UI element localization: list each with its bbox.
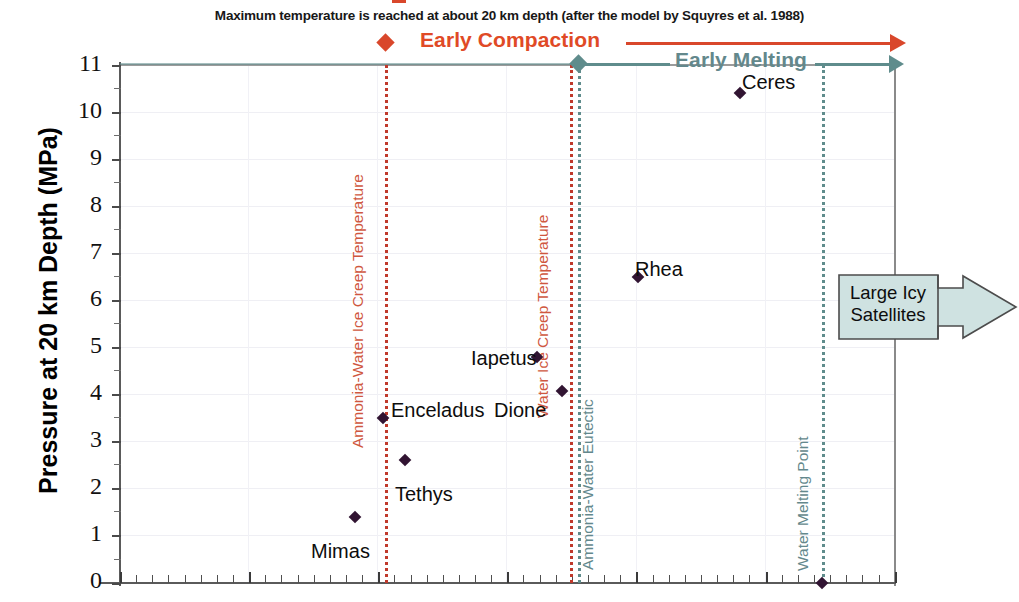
x-axis-minor-tick bbox=[717, 575, 718, 583]
x-axis-major-tick bbox=[120, 572, 122, 583]
melting-right-line bbox=[815, 63, 891, 66]
x-axis-minor-tick bbox=[346, 575, 347, 583]
data-point-tethys[interactable] bbox=[399, 453, 412, 466]
threshold-label-ammonia-water-eutectic: Ammonia-Water Eutectic bbox=[579, 399, 597, 570]
x-axis-minor-tick bbox=[330, 575, 331, 583]
x-axis-minor-tick bbox=[701, 575, 702, 583]
x-axis-major-tick bbox=[895, 572, 897, 583]
x-axis-minor-tick bbox=[830, 575, 831, 583]
x-axis-minor-tick bbox=[475, 575, 476, 583]
annotation-label-early-melting: Early Melting bbox=[675, 48, 807, 72]
x-axis-minor-tick bbox=[653, 575, 654, 583]
x-axis-minor-tick bbox=[620, 575, 621, 583]
x-axis-minor-tick bbox=[604, 575, 605, 583]
x-axis-minor-tick bbox=[733, 575, 734, 583]
x-axis-minor-tick bbox=[782, 575, 783, 583]
x-axis-minor-tick bbox=[491, 575, 492, 583]
callout-line-1: Large Icy bbox=[850, 282, 926, 303]
x-axis-major-tick bbox=[507, 572, 509, 583]
x-axis-minor-tick bbox=[459, 575, 460, 583]
data-point-dione[interactable] bbox=[556, 384, 569, 397]
x-axis-major-tick bbox=[249, 572, 251, 583]
x-axis-minor-tick bbox=[443, 575, 444, 583]
x-axis-minor-tick bbox=[185, 575, 186, 583]
x-axis-minor-tick bbox=[523, 575, 524, 583]
compaction-arrowhead-icon bbox=[890, 34, 906, 52]
callout-text: Large Icy Satellites bbox=[842, 282, 934, 326]
x-axis-minor-tick bbox=[233, 575, 234, 583]
x-axis-minor-tick bbox=[540, 575, 541, 583]
melting-baseline bbox=[120, 63, 572, 65]
chart-canvas: Maximum temperature is reached at about … bbox=[0, 0, 1019, 602]
x-axis-minor-tick bbox=[879, 575, 880, 583]
x-axis-minor-tick bbox=[556, 575, 557, 583]
x-axis-minor-tick bbox=[265, 575, 266, 583]
x-axis-minor-tick bbox=[862, 575, 863, 583]
x-axis-minor-tick bbox=[152, 575, 153, 583]
x-axis-minor-tick bbox=[749, 575, 750, 583]
x-axis-minor-tick bbox=[685, 575, 686, 583]
annotation-label-early-compaction: Early Compaction bbox=[420, 28, 600, 52]
x-axis-minor-tick bbox=[588, 575, 589, 583]
callout-line-2: Satellites bbox=[850, 304, 925, 325]
x-axis-minor-tick bbox=[411, 575, 412, 583]
x-axis-minor-tick bbox=[362, 575, 363, 583]
melting-left-line bbox=[585, 63, 670, 66]
data-point-label-dione: Dione bbox=[494, 399, 546, 422]
x-axis-line bbox=[100, 582, 896, 584]
threshold-line-water-ice-creep bbox=[570, 65, 573, 583]
chart-title: Maximum temperature is reached at about … bbox=[0, 8, 1019, 23]
callout-large-icy-satellites: Large Icy Satellites bbox=[838, 274, 1019, 340]
x-axis-minor-tick bbox=[798, 575, 799, 583]
threshold-label-ammonia-water-ice-creep: Ammonia-Water Ice Creep Temperature bbox=[349, 174, 367, 448]
threshold-line-ammonia-water-ice-creep bbox=[385, 65, 388, 583]
data-point-mimas[interactable] bbox=[349, 511, 362, 524]
data-point-label-ceres: Ceres bbox=[742, 71, 795, 94]
x-axis-minor-tick bbox=[427, 575, 428, 583]
compaction-left-stub bbox=[392, 0, 406, 3]
x-axis-minor-tick bbox=[217, 575, 218, 583]
x-axis-minor-tick bbox=[298, 575, 299, 583]
x-axis-minor-tick bbox=[846, 575, 847, 583]
compaction-right-line bbox=[626, 42, 893, 45]
data-point-label-mimas: Mimas bbox=[311, 540, 370, 563]
melting-arrowhead-icon bbox=[889, 55, 904, 73]
x-axis-minor-tick bbox=[201, 575, 202, 583]
data-point[interactable] bbox=[816, 577, 829, 590]
x-axis-major-tick bbox=[378, 572, 380, 583]
x-axis-minor-tick bbox=[168, 575, 169, 583]
x-axis-minor-tick bbox=[669, 575, 670, 583]
x-axis-minor-tick bbox=[314, 575, 315, 583]
data-point-label-enceladus: Enceladus bbox=[391, 399, 484, 422]
data-point-label-iapetus: Iapetus bbox=[471, 347, 537, 370]
x-axis-major-tick bbox=[636, 572, 638, 583]
threshold-label-water-melting-point: Water Melting Point bbox=[794, 436, 812, 571]
x-axis-major-tick bbox=[766, 572, 768, 583]
threshold-line-water-melting-point bbox=[822, 65, 825, 583]
x-axis-minor-tick bbox=[394, 575, 395, 583]
data-point-label-rhea: Rhea bbox=[635, 258, 683, 281]
data-point-label-tethys: Tethys bbox=[395, 483, 453, 506]
x-axis-minor-tick bbox=[281, 575, 282, 583]
threshold-label-water-ice-creep: Water Ice Creep Temperature bbox=[534, 215, 552, 418]
compaction-diamond-marker bbox=[376, 33, 394, 51]
x-axis-minor-tick bbox=[136, 575, 137, 583]
